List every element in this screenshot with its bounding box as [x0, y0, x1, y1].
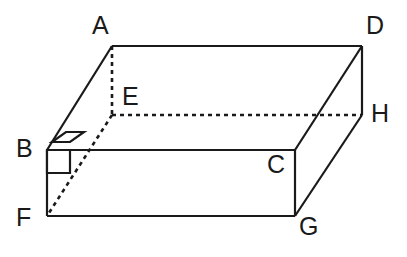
vertex-label-d: D	[366, 13, 384, 38]
right-angle-mark-group	[47, 132, 84, 173]
prism-diagram: ADEHBCFG	[0, 0, 407, 257]
vertex-label-e: E	[122, 84, 139, 109]
vertex-label-b: B	[16, 136, 33, 161]
edge-d-c	[295, 46, 362, 150]
vertex-label-h: H	[371, 101, 389, 126]
vertex-label-f: F	[16, 205, 31, 230]
edge-h-g	[295, 115, 362, 216]
solid-edge-group	[47, 46, 362, 216]
vertex-label-g: G	[299, 214, 318, 239]
vertex-label-c: C	[267, 152, 285, 177]
prism-svg-canvas	[0, 0, 407, 257]
vertex-label-a: A	[92, 13, 109, 38]
right-angle-mark-square	[47, 150, 70, 173]
hidden-edge-group	[47, 46, 362, 216]
